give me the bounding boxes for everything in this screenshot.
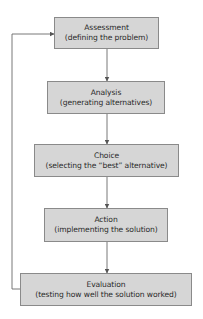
step-subtitle: (selecting the “best” alternative) (46, 161, 168, 171)
step-subtitle: (testing how well the solution worked) (35, 290, 176, 300)
step-analysis: Analysis (generating alternatives) (47, 81, 165, 114)
step-choice: Choice (selecting the “best” alternative… (34, 144, 179, 177)
step-subtitle: (implementing the solution) (54, 225, 157, 235)
step-title: Evaluation (86, 280, 125, 290)
decision-process-diagram: Assessment (defining the problem) Analys… (0, 0, 203, 319)
step-title: Assessment (84, 23, 129, 33)
step-subtitle: (defining the problem) (65, 33, 148, 43)
step-title: Action (94, 215, 117, 225)
step-title: Analysis (91, 88, 122, 98)
step-action: Action (implementing the solution) (44, 208, 168, 242)
step-evaluation: Evaluation (testing how well the solutio… (20, 273, 192, 306)
step-title: Choice (94, 151, 119, 161)
step-subtitle: (generating alternatives) (60, 98, 152, 108)
step-assessment: Assessment (defining the problem) (54, 17, 159, 49)
